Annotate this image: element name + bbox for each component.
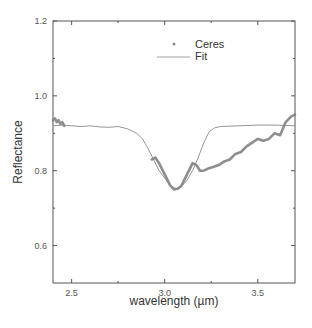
x-axis-label: wavelength (µm): [129, 294, 219, 308]
x-axis-ticks: 2.53.03.5: [65, 21, 264, 298]
y-axis-ticks: 0.60.81.01.2: [34, 16, 295, 251]
y-axis-label: Reflectance: [11, 120, 25, 184]
fit-line: [53, 125, 295, 189]
legend-ceres-label: Ceres: [195, 38, 225, 50]
x-tick-label: 3.5: [252, 288, 265, 298]
y-tick-label: 0.8: [34, 166, 47, 176]
legend-ceres-marker: [173, 43, 176, 46]
series-layer: [53, 115, 295, 190]
ceres-data-points: [152, 115, 295, 190]
y-tick-label: 0.6: [34, 241, 47, 251]
plot-border: [53, 21, 295, 283]
plot-frame: [53, 21, 295, 283]
y-tick-label: 1.2: [34, 16, 47, 26]
reflectance-chart: 2.53.03.5 0.60.81.01.2 Ceres Fit wavelen…: [0, 0, 312, 328]
legend: Ceres Fit: [157, 38, 225, 62]
y-tick-label: 1.0: [34, 91, 47, 101]
legend-fit-label: Fit: [195, 50, 207, 62]
x-tick-label: 2.5: [65, 288, 78, 298]
